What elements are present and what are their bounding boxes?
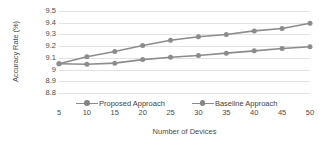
data-point-marker bbox=[112, 49, 117, 54]
legend-label: Baseline Approach bbox=[215, 99, 278, 108]
x-axis-tick-label: 5 bbox=[57, 108, 61, 118]
data-point-marker bbox=[168, 55, 173, 60]
x-axis-tick-label: 10 bbox=[83, 108, 91, 118]
chart-legend: Proposed ApproachBaseline Approach bbox=[62, 97, 310, 109]
series-proposed-approach bbox=[57, 21, 313, 66]
y-axis-tick-label: 9.1 bbox=[38, 54, 56, 62]
y-axis-tick-labels: 9.59.49.39.29.198.98.8 bbox=[38, 11, 56, 93]
y-axis-tick-label: 9 bbox=[38, 66, 56, 74]
x-axis-tick-label: 40 bbox=[250, 108, 258, 118]
legend-marker-icon bbox=[76, 99, 98, 108]
y-axis-tick-label: 8.8 bbox=[38, 89, 56, 97]
data-point-marker bbox=[140, 57, 145, 62]
gridline bbox=[59, 93, 310, 94]
y-axis-tick-label: 9.5 bbox=[38, 7, 56, 15]
legend-item[interactable]: Baseline Approach bbox=[192, 99, 278, 108]
x-axis-tick-label: 50 bbox=[306, 108, 314, 118]
legend-dot bbox=[200, 100, 206, 106]
data-point-marker bbox=[224, 51, 229, 56]
x-axis-tick-label: 20 bbox=[138, 108, 146, 118]
data-point-marker bbox=[280, 26, 285, 31]
legend-dot bbox=[84, 100, 90, 106]
y-axis-tick-label: 8.9 bbox=[38, 77, 56, 85]
plot-area bbox=[59, 11, 310, 93]
series-layer bbox=[59, 11, 310, 93]
data-point-marker bbox=[196, 53, 201, 58]
data-point-marker bbox=[168, 38, 173, 43]
y-axis-tick-label: 9.4 bbox=[38, 19, 56, 27]
legend-item[interactable]: Proposed Approach bbox=[76, 99, 165, 108]
y-axis-title: Accuracy Rate (%) bbox=[11, 4, 20, 100]
data-point-marker bbox=[308, 21, 313, 26]
x-axis-title: Number of Devices bbox=[59, 127, 310, 136]
data-point-marker bbox=[84, 54, 89, 59]
data-point-marker bbox=[84, 62, 89, 67]
data-point-marker bbox=[308, 44, 313, 49]
x-axis-tick-label: 45 bbox=[278, 108, 286, 118]
x-axis-tick-label: 30 bbox=[194, 108, 202, 118]
line-chart: Accuracy Rate (%) 9.59.49.39.29.198.98.8… bbox=[0, 0, 323, 145]
x-axis-tick-label: 15 bbox=[111, 108, 119, 118]
data-point-marker bbox=[140, 43, 145, 48]
data-point-marker bbox=[280, 46, 285, 51]
data-point-marker bbox=[112, 61, 117, 66]
x-axis-tick-labels: 5101520253035404550 bbox=[59, 108, 310, 119]
data-point-marker bbox=[57, 61, 62, 66]
data-point-marker bbox=[224, 32, 229, 37]
series-line bbox=[59, 23, 310, 63]
x-axis-tick-label: 25 bbox=[166, 108, 174, 118]
data-point-marker bbox=[252, 48, 257, 53]
y-axis-tick-label: 9.2 bbox=[38, 42, 56, 50]
x-axis-tick-label: 35 bbox=[222, 108, 230, 118]
data-point-marker bbox=[252, 28, 257, 33]
data-point-marker bbox=[196, 34, 201, 39]
y-axis-tick-label: 9.3 bbox=[38, 30, 56, 38]
legend-label: Proposed Approach bbox=[99, 99, 165, 108]
legend-marker-icon bbox=[192, 99, 214, 108]
